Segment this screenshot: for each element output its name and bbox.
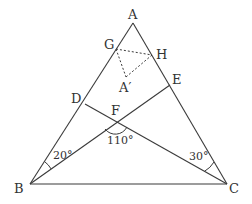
segment-ga-prime: [116, 49, 126, 77]
angle-label-f: 110°: [107, 134, 134, 147]
angle-label-b: 20°: [53, 149, 73, 162]
segment-gh: [116, 49, 152, 55]
label-f: F: [111, 103, 120, 118]
label-a-prime: A′: [118, 80, 131, 95]
angle-arc-b: [45, 162, 52, 170]
geometry-diagram: A B C D E F G H A′ 20° 30° 110°: [0, 0, 252, 204]
segment-ha-prime: [126, 55, 152, 77]
label-h: H: [156, 47, 167, 62]
label-d: D: [71, 91, 81, 106]
angle-label-c: 30°: [189, 150, 209, 163]
label-c: C: [229, 181, 239, 196]
label-g: G: [104, 37, 114, 52]
label-b: B: [14, 181, 24, 196]
segment-be: [30, 85, 170, 184]
segment-ac: [133, 23, 227, 184]
label-e: E: [172, 72, 182, 87]
angle-arc-c: [205, 162, 215, 171]
label-a: A: [127, 7, 138, 22]
